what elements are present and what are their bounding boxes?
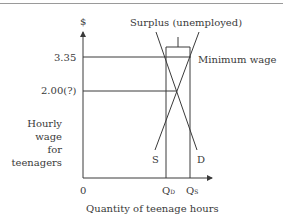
minimum-wage-label: Minimum wage <box>198 54 277 65</box>
quantity-supplied-label: QS <box>186 185 198 197</box>
quantity-demanded-label: QD <box>162 185 175 197</box>
y-axis-label-line: teenagers <box>10 156 62 169</box>
y-axis-label-line: for <box>10 143 62 156</box>
price-tick-2-00: 2.00(?) <box>41 85 76 96</box>
demand-label: D <box>197 154 205 165</box>
x-axis-label: Quantity of teenage hours <box>86 203 219 214</box>
q-subscript: S <box>194 188 198 195</box>
price-tick-3-35: 3.35 <box>54 52 76 63</box>
y-axis-label: Hourly wage for teenagers <box>10 117 62 169</box>
surplus-label: Surplus (unemployed) <box>130 17 242 28</box>
y-axis-symbol: $ <box>80 16 86 27</box>
q-subscript: D <box>170 188 175 195</box>
y-axis-label-line: Hourly <box>10 117 62 130</box>
supply-label: S <box>152 154 159 165</box>
supply-demand-diagram <box>0 0 283 223</box>
y-axis-label-line: wage <box>10 130 62 143</box>
origin-label: 0 <box>80 185 86 196</box>
q-letter: Q <box>186 185 194 196</box>
q-letter: Q <box>162 185 170 196</box>
